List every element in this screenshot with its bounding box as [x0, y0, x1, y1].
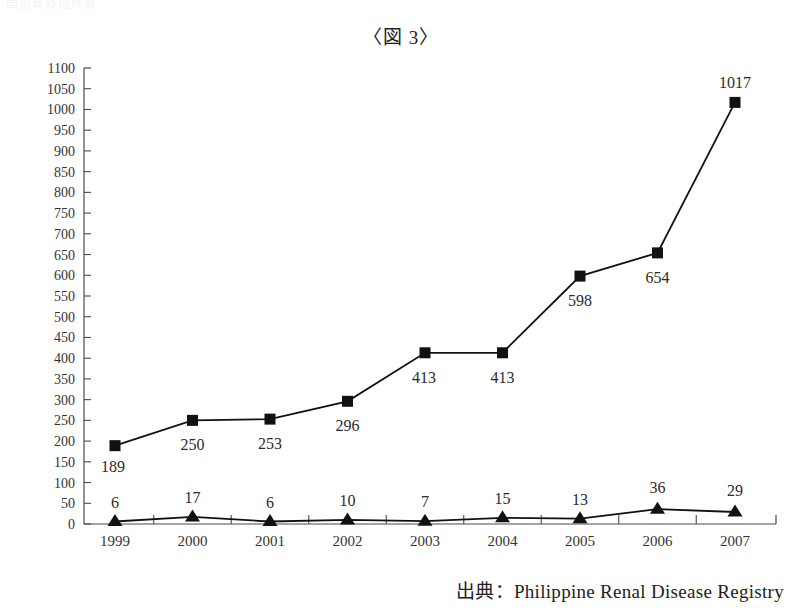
data-point-triangle — [728, 505, 743, 517]
y-tick-label: 900 — [54, 144, 75, 159]
y-tick-label: 850 — [54, 165, 75, 180]
y-tick-label: 1000 — [47, 102, 75, 117]
y-tick-label: 1050 — [47, 82, 75, 97]
data-point-label: 296 — [336, 417, 360, 434]
y-tick-label: 350 — [54, 372, 75, 387]
figure-page: 国別腎移植件数 〈図 3〉 11001050100095090085080075… — [0, 0, 802, 615]
data-point-label: 36 — [650, 479, 666, 496]
data-point-label: 13 — [572, 491, 588, 508]
data-point-triangle — [108, 514, 123, 526]
y-tick-label: 500 — [54, 310, 75, 325]
data-point-label: 413 — [491, 369, 515, 386]
y-tick-label: 0 — [68, 517, 75, 532]
x-tick-label: 2001 — [255, 533, 285, 549]
y-tick-label: 400 — [54, 351, 75, 366]
data-point-square — [420, 347, 431, 358]
y-tick-label: 450 — [54, 330, 75, 345]
data-point-square — [575, 271, 586, 282]
y-tick-label: 200 — [54, 434, 75, 449]
data-point-label: 654 — [646, 269, 670, 286]
y-tick-label: 300 — [54, 393, 75, 408]
data-point-label: 250 — [181, 436, 205, 453]
data-point-triangle — [263, 514, 278, 526]
x-tick-label: 2007 — [720, 533, 751, 549]
data-point-label: 10 — [340, 492, 356, 509]
data-point-square — [342, 396, 353, 407]
y-tick-label: 950 — [54, 123, 75, 138]
y-tick-label: 1100 — [48, 61, 75, 76]
y-tick-label: 700 — [54, 227, 75, 242]
x-tick-label: 2004 — [488, 533, 519, 549]
y-tick-label: 150 — [54, 455, 75, 470]
data-point-label: 413 — [412, 369, 436, 386]
data-point-square — [497, 347, 508, 358]
data-point-triangle — [495, 510, 510, 522]
y-tick-label: 750 — [54, 206, 75, 221]
data-point-triangle — [650, 502, 665, 514]
y-tick-label: 250 — [54, 413, 75, 428]
x-tick-label: 2003 — [410, 533, 440, 549]
data-point-label: 1017 — [719, 74, 751, 91]
source-note: 出典：Philippine Renal Disease Registry — [456, 576, 784, 603]
series-line-square — [115, 102, 735, 445]
data-point-label: 189 — [101, 458, 125, 475]
x-tick-label: 2002 — [333, 533, 363, 549]
x-tick-label: 1999 — [100, 533, 130, 549]
data-point-label: 17 — [185, 489, 201, 506]
data-point-label: 6 — [111, 494, 119, 511]
data-point-label: 15 — [495, 490, 511, 507]
x-tick-label: 2006 — [643, 533, 674, 549]
data-point-triangle — [185, 510, 200, 522]
data-point-label: 7 — [421, 493, 429, 510]
data-point-square — [187, 415, 198, 426]
y-tick-label: 550 — [54, 289, 75, 304]
data-point-triangle — [340, 512, 355, 524]
data-point-square — [110, 440, 121, 451]
data-point-label: 6 — [266, 494, 274, 511]
line-chart: 1100105010009509008508007507006506005505… — [0, 0, 802, 615]
data-point-square — [730, 97, 741, 108]
data-point-square — [265, 414, 276, 425]
y-tick-label: 600 — [54, 268, 75, 283]
y-tick-label: 50 — [61, 496, 75, 511]
data-point-label: 29 — [727, 482, 743, 499]
y-tick-label: 100 — [54, 476, 75, 491]
data-point-label: 598 — [568, 292, 592, 309]
data-point-triangle — [418, 514, 433, 526]
data-point-square — [652, 247, 663, 258]
x-tick-label: 2000 — [178, 533, 208, 549]
y-tick-label: 650 — [54, 248, 75, 263]
x-tick-label: 2005 — [565, 533, 595, 549]
data-point-label: 253 — [258, 435, 282, 452]
y-tick-label: 800 — [54, 185, 75, 200]
